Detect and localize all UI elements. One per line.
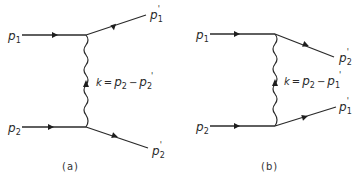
arrow-icon [111,132,119,140]
diagram-a: p1 p2 p1' p2' k=p2−p2' (a) [7,5,165,172]
label-p2-out: p2' [151,141,165,160]
diagram-b: p1 p2 p2' p1' k=p2−p1' (b) [195,28,352,172]
label-p1-out: p1' [338,97,352,116]
label-p1-in: p1 [7,29,21,45]
fermion-line-outgoing-top [86,15,146,35]
label-p2-in: p2 [7,121,21,137]
label-p1-in: p1 [195,28,209,44]
fermion-line-outgoing-bottom [86,127,148,148]
caption-b: (b) [261,161,278,172]
arrow-icon [52,32,58,38]
arrow-icon [301,113,308,120]
caption-a: (a) [62,161,79,172]
arrow-icon [48,124,54,130]
label-p2-out: p2' [338,48,352,67]
label-p2-in: p2 [195,120,209,136]
feynman-diagrams: p1 p2 p1' p2' k=p2−p2' (a) p1 p2 p2' p1'… [0,0,358,181]
arrow-icon [234,123,240,129]
arrow-icon [234,31,240,37]
label-p1-out: p1' [149,5,163,24]
momentum-transfer-label: k=p2−p1' [284,71,341,90]
momentum-transfer-label: k=p2−p2' [96,72,153,91]
